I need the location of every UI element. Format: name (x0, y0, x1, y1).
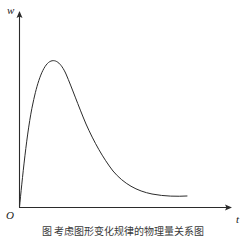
origin-label: O (6, 209, 14, 221)
data-curve-w-t (20, 61, 188, 207)
figure-caption: 图 考虑图形变化规律的物理量关系图 (0, 226, 246, 237)
figure-container: w t O 图 考虑图形变化规律的物理量关系图 (0, 0, 246, 237)
x-axis-label: t (236, 213, 240, 225)
y-axis-label: w (7, 4, 15, 16)
chart-canvas: w t O (0, 0, 246, 237)
